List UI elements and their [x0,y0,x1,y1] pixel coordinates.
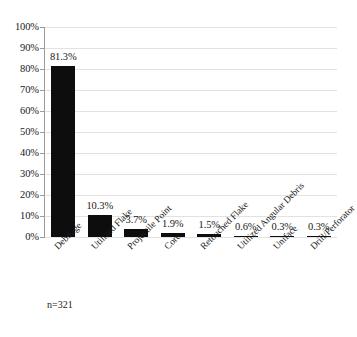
bar-value-label: 81.3% [37,52,89,63]
y-tick-label: 10% [0,211,39,222]
gridline [45,153,337,154]
y-tick-mark [40,153,45,154]
y-tick-label: 40% [0,148,39,159]
gridline [45,90,337,91]
y-tick-label: 100% [0,22,39,33]
y-tick-label: 80% [0,64,39,75]
y-tick-label: 60% [0,106,39,117]
y-tick-mark [40,237,45,238]
gridline [45,27,337,28]
y-tick-mark [40,132,45,133]
sample-size-note: n=321 [47,300,73,310]
y-tick-mark [40,174,45,175]
y-tick-mark [40,90,45,91]
y-tick-mark [40,27,45,28]
gridline [45,174,337,175]
y-tick-mark [40,69,45,70]
y-tick-label: 30% [0,169,39,180]
y-tick-label: 20% [0,190,39,201]
y-tick-mark [40,195,45,196]
gridline [45,111,337,112]
gridline [45,69,337,70]
y-tick-label: 70% [0,85,39,96]
y-tick-mark [40,111,45,112]
y-tick-label: 50% [0,127,39,138]
y-tick-mark [40,48,45,49]
y-tick-mark [40,216,45,217]
bar-value-label: 10.3% [74,201,126,212]
gridline [45,132,337,133]
y-tick-label: 90% [0,43,39,54]
gridline [45,48,337,49]
y-tick-label: 0% [0,232,39,243]
bar [51,66,75,237]
